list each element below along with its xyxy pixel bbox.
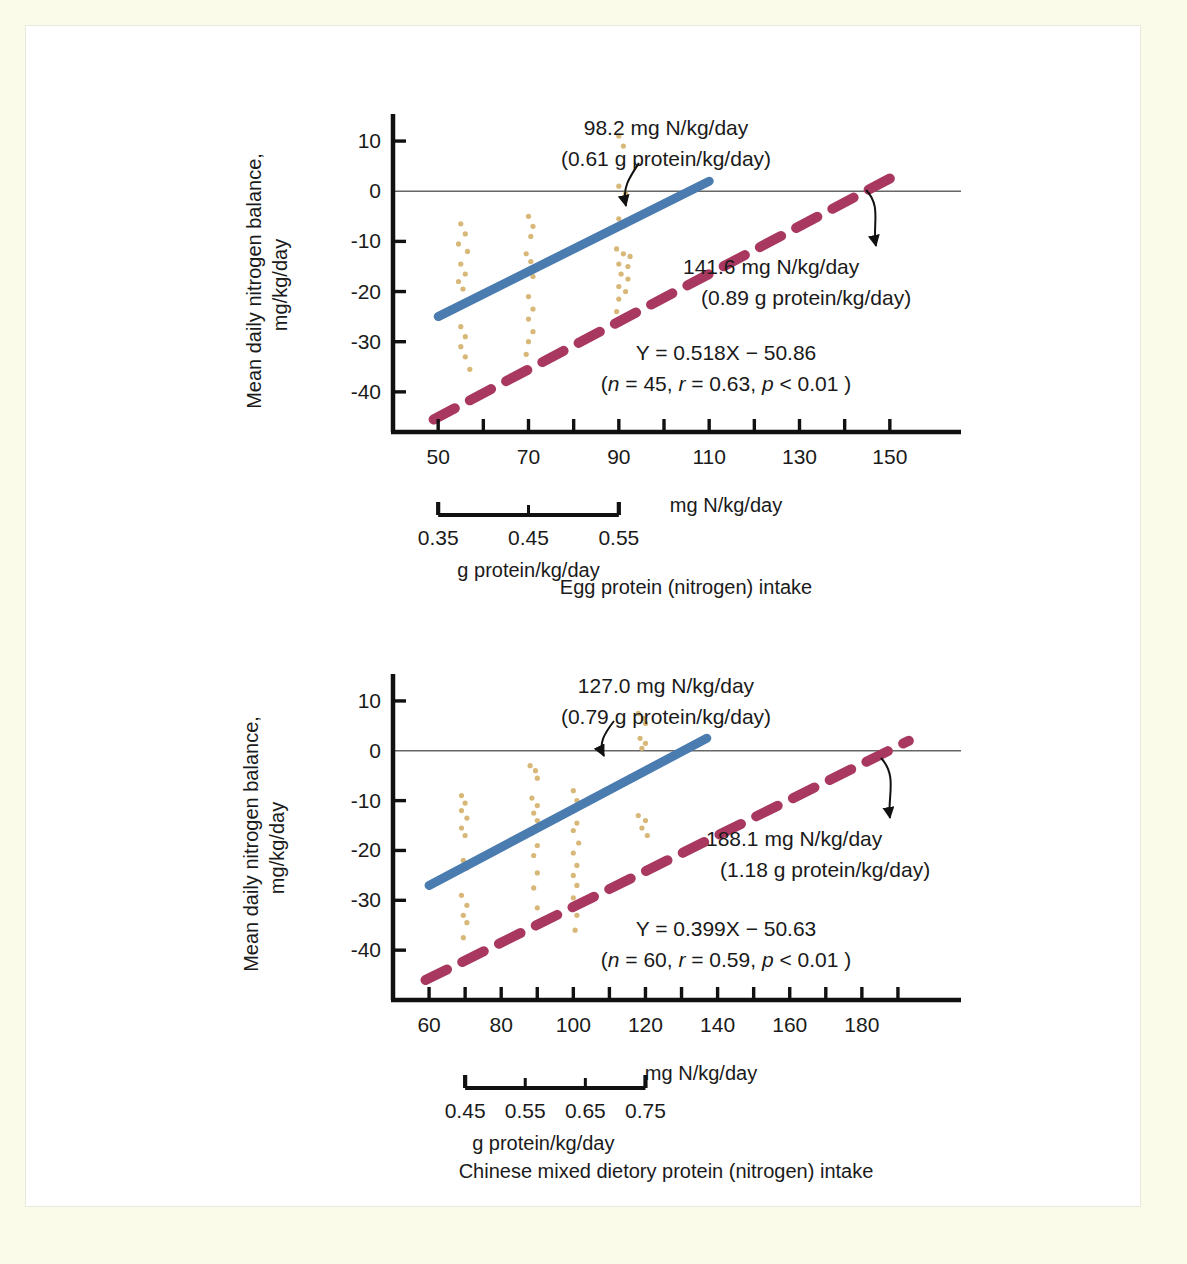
secondary-axis-tick-label: 0.45	[445, 1099, 486, 1122]
scatter-point	[625, 276, 630, 281]
x-tick-label: 90	[607, 445, 630, 468]
x-tick-label: 150	[872, 445, 907, 468]
scatter-point	[459, 893, 464, 898]
y-axis-ticks: 100-10-20-30-40	[351, 129, 406, 403]
annotations: 127.0 mg N/kg/day(0.79 g protein/kg/day)…	[561, 674, 930, 881]
secondary-axis: 0.350.450.55g protein/kg/day	[418, 502, 640, 581]
x-axis-ticks: 507090110130150	[426, 419, 907, 468]
x-tick-label: 110	[692, 445, 725, 468]
scatter-point	[530, 329, 535, 334]
scatter-point	[464, 903, 469, 908]
secondary-axis-tick-label: 0.65	[565, 1099, 606, 1122]
eq-paren: (	[601, 948, 608, 971]
scatter-point	[639, 746, 644, 751]
scatter-point	[574, 863, 579, 868]
scatter-point	[464, 920, 469, 925]
y-axis-title-line2: mg/kg/day	[269, 239, 291, 331]
eq-n-value: = 45,	[619, 372, 678, 395]
scatter-point	[645, 833, 650, 838]
scatter-point	[530, 307, 535, 312]
chart-caption: Egg protein (nitrogen) intake	[560, 576, 812, 598]
scatter-point	[459, 793, 464, 798]
scatter-point	[528, 259, 533, 264]
eq-p-symbol: p	[761, 948, 774, 971]
x-tick-label: 100	[556, 1013, 591, 1036]
scatter-point	[533, 768, 538, 773]
scatter-point	[528, 763, 533, 768]
y-tick-label: 10	[358, 689, 381, 712]
eq-p-value: < 0.01 )	[774, 372, 852, 395]
chinese-mixed-diet-plot: 100-10-20-30-406080100120140160180mg N/k…	[26, 626, 1140, 1206]
secondary-axis-tick-label: 0.35	[418, 526, 459, 549]
x-tick-label: 60	[417, 1013, 440, 1036]
scatter-point	[643, 818, 648, 823]
scatter-point	[458, 261, 463, 266]
scatter-point	[621, 251, 626, 256]
page-background: 100-10-20-30-40507090110130150mg N/kg/da…	[0, 0, 1187, 1264]
annotation-dashed-line-2: (1.18 g protein/kg/day)	[720, 858, 930, 881]
scatter-point	[531, 885, 536, 890]
annotation-arrow-dashed	[881, 758, 891, 818]
annotation-arrow-dashed	[866, 190, 876, 246]
scatter-point	[524, 251, 529, 256]
scatter-point	[614, 246, 619, 251]
equation-line: Y = 0.399X − 50.63	[636, 917, 817, 940]
x-tick-label: 140	[700, 1013, 735, 1036]
regression-equation: Y = 0.399X − 50.63(n = 60, r = 0.59, p <…	[601, 917, 851, 971]
scatter-point	[535, 843, 540, 848]
scatter-point	[574, 821, 579, 826]
scatter-point	[531, 811, 536, 816]
regression-equation: Y = 0.518X − 50.86(n = 45, r = 0.63, p <…	[601, 341, 851, 395]
scatter-point	[574, 913, 579, 918]
scatter-point	[529, 796, 534, 801]
eq-n-value: = 60,	[619, 948, 678, 971]
scatter-point	[571, 873, 576, 878]
scatter-point	[576, 840, 581, 845]
scatter-point	[571, 828, 576, 833]
secondary-axis-tick-label: 0.55	[505, 1099, 546, 1122]
scatter-point	[571, 895, 576, 900]
annotation-solid-line-2: (0.79 g protein/kg/day)	[561, 705, 771, 728]
scatter-point	[643, 741, 648, 746]
y-tick-label: -10	[351, 789, 381, 812]
y-axis-title-line2: mg/kg/day	[266, 802, 288, 894]
scatter-point	[531, 853, 536, 858]
chart-egg-protein: 100-10-20-30-40507090110130150mg N/kg/da…	[26, 66, 1140, 626]
scatter-point	[456, 279, 461, 284]
eq-n-symbol: n	[608, 948, 620, 971]
annotation-dashed-line-1: 141.6 mg N/kg/day	[683, 255, 860, 278]
scatter-point	[530, 224, 535, 229]
equation-stats-line: (n = 60, r = 0.59, p < 0.01 )	[601, 948, 851, 971]
scatter-point	[458, 221, 463, 226]
figure-panel: 100-10-20-30-40507090110130150mg N/kg/da…	[26, 26, 1140, 1206]
chart-chinese-mixed-diet: 100-10-20-30-406080100120140160180mg N/k…	[26, 626, 1140, 1206]
scatter-point	[524, 352, 529, 357]
scatter-point	[456, 241, 461, 246]
scatter-point	[574, 883, 579, 888]
annotation-solid-line-1: 98.2 mg N/kg/day	[584, 116, 749, 139]
y-axis-title-line1: Mean daily nitrogen balance,	[243, 153, 265, 409]
x-axis-title: mg N/kg/day	[670, 494, 782, 516]
y-tick-label: -40	[351, 938, 381, 961]
annotation-dashed-line-1: 188.1 mg N/kg/day	[706, 827, 883, 850]
scatter-point	[463, 833, 468, 838]
scatter-point	[459, 825, 464, 830]
scatter-point	[465, 249, 470, 254]
scatter-point	[464, 816, 469, 821]
eq-r-value: = 0.63,	[685, 372, 761, 395]
y-tick-label: -20	[351, 838, 381, 861]
x-tick-label: 80	[490, 1013, 513, 1036]
secondary-axis-tick-label: 0.75	[625, 1099, 666, 1122]
scatter-point	[616, 184, 621, 189]
eq-p-symbol: p	[761, 372, 774, 395]
annotations: 98.2 mg N/kg/day(0.61 g protein/kg/day)1…	[561, 116, 911, 309]
chart-caption: Chinese mixed dietory protein (nitrogen)…	[459, 1160, 874, 1182]
scatter-point	[571, 788, 576, 793]
scatter-point	[460, 286, 465, 291]
scatter-point	[463, 801, 468, 806]
scatter-point	[461, 913, 466, 918]
secondary-axis: 0.450.550.650.75g protein/kg/day	[445, 1075, 666, 1154]
scatter-point	[526, 339, 531, 344]
scatter-point	[526, 214, 531, 219]
scatter-point	[535, 905, 540, 910]
